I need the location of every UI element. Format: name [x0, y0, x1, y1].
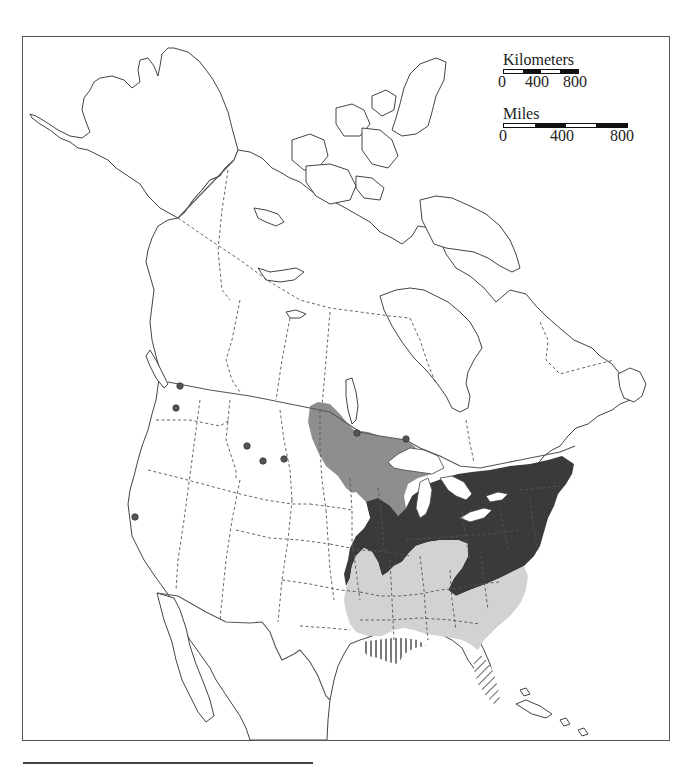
occurrence-point	[132, 514, 138, 520]
coastline-outlines	[30, 48, 646, 740]
scale-mi-tick-800: 800	[610, 128, 634, 144]
scale-mi-tick-400: 400	[550, 128, 574, 144]
occurrence-point	[260, 458, 266, 464]
island-small-2	[560, 718, 570, 726]
island-small-1	[520, 688, 530, 696]
occurrence-point	[177, 383, 183, 389]
scale-km-label: Kilometers	[503, 52, 579, 68]
occurrence-point	[403, 436, 409, 442]
arctic-island-5	[356, 176, 384, 200]
scale-mi-label: Miles	[503, 106, 628, 122]
scale-mi-ticks: 0 400 800	[503, 128, 628, 144]
arctic-island-6	[372, 90, 396, 116]
scale-km-ticks: 0 400 800	[503, 74, 579, 90]
range-hatched-florida	[474, 654, 500, 704]
occurrence-point	[244, 443, 250, 449]
scale-miles: Miles 0 400 800	[503, 106, 628, 144]
scale-km-tick-800: 800	[563, 74, 587, 90]
cuba	[516, 700, 552, 718]
scale-km-tick-400: 400	[525, 74, 549, 90]
footnote-rule	[23, 762, 313, 764]
arctic-island-4	[362, 128, 398, 168]
scale-km-tick-0: 0	[498, 74, 506, 90]
range-hatched-gulf	[362, 638, 426, 664]
scale-kilometers: Kilometers 0 400 800	[503, 52, 579, 90]
occurrence-point	[173, 405, 179, 411]
ellesmere-island	[392, 58, 446, 136]
scale-mi-tick-0: 0	[499, 128, 507, 144]
occurrence-point	[281, 456, 287, 462]
island-small-3	[578, 728, 588, 736]
occurrence-point	[354, 430, 360, 436]
